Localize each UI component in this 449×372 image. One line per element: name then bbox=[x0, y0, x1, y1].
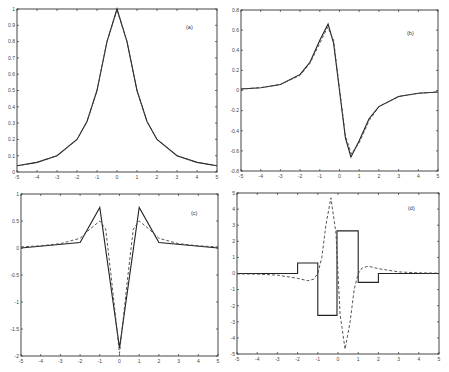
y-tick-label: 0 bbox=[16, 245, 19, 251]
y-tick-label: 0.3 bbox=[8, 120, 15, 126]
x-tick-label: -5 bbox=[15, 174, 20, 180]
subplot-c: -5-4-3-2-1012345-2-1.5-1-0.500.51(c) bbox=[10, 191, 219, 364]
y-tick-label: -3 bbox=[231, 319, 236, 325]
panel-label: (d) bbox=[408, 205, 415, 211]
x-tick-label: 5 bbox=[217, 358, 220, 364]
x-tick-label: -3 bbox=[275, 356, 280, 362]
y-tick-label: 0.2 bbox=[8, 136, 15, 142]
x-tick-label: -4 bbox=[38, 358, 43, 364]
y-tick-label: 0.4 bbox=[232, 47, 239, 53]
x-tick-label: 1 bbox=[358, 173, 361, 179]
series-dashed-line bbox=[241, 27, 438, 154]
axes-frame bbox=[17, 9, 217, 172]
x-tick-label: 0 bbox=[116, 174, 119, 180]
y-tick-label: -1 bbox=[15, 299, 20, 305]
x-tick-label: 4 bbox=[197, 358, 200, 364]
x-tick-label: -1 bbox=[95, 174, 100, 180]
x-tick-label: -5 bbox=[235, 356, 240, 362]
chart-figure: -5-4-3-2-101234500.10.20.30.40.50.60.70.… bbox=[0, 0, 449, 372]
y-tick-label: -0.4 bbox=[230, 128, 239, 134]
y-tick-label: 0.9 bbox=[8, 22, 15, 28]
y-tick-label: 3 bbox=[232, 222, 235, 228]
y-tick-label: 1 bbox=[16, 191, 19, 197]
x-tick-label: -3 bbox=[278, 173, 283, 179]
series-solid-line bbox=[17, 9, 217, 166]
x-tick-label: 3 bbox=[397, 356, 400, 362]
y-tick-label: 0 bbox=[12, 169, 15, 175]
y-tick-label: 2 bbox=[232, 238, 235, 244]
x-tick-label: -2 bbox=[75, 174, 80, 180]
subplot-d: -5-4-3-2-1012345-5-4-3-2-1012345(d) bbox=[231, 190, 441, 362]
y-tick-label: 0.1 bbox=[8, 153, 15, 159]
x-tick-label: 2 bbox=[158, 358, 161, 364]
x-tick-label: -1 bbox=[98, 358, 103, 364]
x-tick-label: -4 bbox=[35, 174, 40, 180]
series-solid-line bbox=[21, 208, 218, 348]
y-tick-label: -0.8 bbox=[230, 168, 239, 174]
x-tick-label: 1 bbox=[136, 174, 139, 180]
x-tick-label: -5 bbox=[239, 173, 244, 179]
y-tick-label: 0.4 bbox=[8, 104, 15, 110]
subplot-a: -5-4-3-2-101234500.10.20.30.40.50.60.70.… bbox=[8, 6, 219, 180]
y-tick-label: -2 bbox=[231, 303, 236, 309]
y-tick-label: -0.5 bbox=[10, 272, 19, 278]
y-tick-label: 0.5 bbox=[8, 87, 15, 93]
y-tick-label: 5 bbox=[232, 190, 235, 196]
y-tick-label: 4 bbox=[232, 206, 235, 212]
y-tick-label: 0.6 bbox=[232, 27, 239, 33]
y-tick-label: -4 bbox=[231, 335, 236, 341]
x-tick-label: 3 bbox=[176, 174, 179, 180]
y-tick-label: -1 bbox=[231, 286, 236, 292]
x-tick-label: 5 bbox=[216, 174, 219, 180]
y-tick-label: 0.8 bbox=[232, 7, 239, 13]
x-tick-label: -1 bbox=[316, 356, 321, 362]
y-tick-label: 0.5 bbox=[12, 218, 19, 224]
x-tick-label: 4 bbox=[417, 173, 420, 179]
x-tick-label: -5 bbox=[19, 358, 24, 364]
x-tick-label: 2 bbox=[378, 173, 381, 179]
subplot-b: -5-4-3-2-1012345-0.8-0.6-0.4-0.200.20.40… bbox=[230, 7, 439, 179]
panel-label: (b) bbox=[407, 30, 414, 36]
y-tick-label: -0.6 bbox=[230, 148, 239, 154]
x-tick-label: 0 bbox=[118, 358, 121, 364]
panel-label: (a) bbox=[186, 24, 193, 30]
y-tick-label: 0.8 bbox=[8, 38, 15, 44]
x-tick-label: 4 bbox=[196, 174, 199, 180]
x-tick-label: 0 bbox=[337, 356, 340, 362]
y-tick-label: 1 bbox=[12, 6, 15, 12]
y-tick-label: 0 bbox=[232, 270, 235, 276]
x-tick-label: -4 bbox=[255, 356, 260, 362]
x-tick-label: -1 bbox=[318, 173, 323, 179]
x-tick-label: 3 bbox=[397, 173, 400, 179]
x-tick-label: -3 bbox=[55, 174, 60, 180]
y-tick-label: -1.5 bbox=[10, 326, 19, 332]
series-dashed-line bbox=[21, 221, 218, 353]
x-tick-label: -3 bbox=[58, 358, 63, 364]
x-tick-label: -2 bbox=[298, 173, 303, 179]
y-tick-label: 0.2 bbox=[232, 67, 239, 73]
y-tick-label: 0 bbox=[236, 87, 239, 93]
panel-label: (c) bbox=[191, 210, 198, 216]
x-tick-label: 2 bbox=[156, 174, 159, 180]
y-tick-label: 0.6 bbox=[8, 71, 15, 77]
x-tick-label: 4 bbox=[417, 356, 420, 362]
x-tick-label: 1 bbox=[138, 358, 141, 364]
x-tick-label: -2 bbox=[295, 356, 300, 362]
x-tick-label: -4 bbox=[258, 173, 263, 179]
x-tick-label: 5 bbox=[438, 356, 441, 362]
x-tick-label: -2 bbox=[78, 358, 83, 364]
y-tick-label: -0.2 bbox=[230, 107, 239, 113]
x-tick-label: 1 bbox=[357, 356, 360, 362]
y-tick-label: 1 bbox=[232, 254, 235, 260]
y-tick-label: -2 bbox=[15, 353, 20, 359]
x-tick-label: 0 bbox=[338, 173, 341, 179]
y-tick-label: -5 bbox=[231, 351, 236, 357]
x-tick-label: 5 bbox=[437, 173, 440, 179]
axes-frame bbox=[21, 194, 218, 356]
y-tick-label: 0.7 bbox=[8, 55, 15, 61]
series-dashed-line bbox=[17, 10, 217, 166]
x-tick-label: 2 bbox=[377, 356, 380, 362]
x-tick-label: 3 bbox=[177, 358, 180, 364]
